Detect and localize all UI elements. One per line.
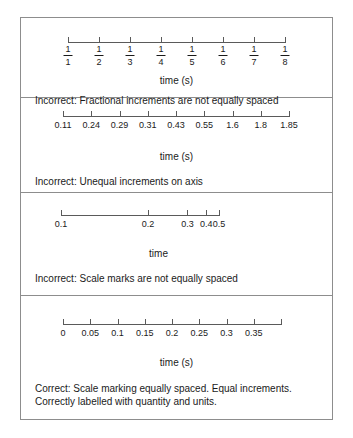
- fraction-numerator: 1: [64, 44, 73, 54]
- tick-label: 1 6: [218, 44, 227, 67]
- fraction-bar: [156, 55, 165, 56]
- tick-label: 0.4: [200, 219, 213, 230]
- axis-line: [61, 215, 219, 216]
- tick-label: 1.6: [226, 120, 239, 131]
- axis-title: time (s): [21, 357, 332, 368]
- axis-track: 1 1 1 2 1 3 1: [68, 42, 285, 76]
- fraction-bar: [281, 55, 290, 56]
- tick-label: 0.29: [111, 120, 129, 131]
- tick-label: 0.3: [181, 219, 194, 230]
- tick-label: 0.1: [111, 328, 124, 339]
- panel-unequal-scale-marks: 0.1 0.2 0.3 0.4 0.5 time Incorrect: Scal…: [21, 193, 332, 296]
- axis-title: time (s): [21, 75, 332, 86]
- fraction-numerator: 1: [218, 44, 227, 54]
- tick-label: 1 7: [249, 44, 258, 67]
- tick-label: 1 3: [125, 44, 134, 67]
- tick-label: 0.24: [82, 120, 100, 131]
- tick-label: 0.2: [142, 219, 155, 230]
- axis-track: 0.1 0.2 0.3 0.4 0.5: [61, 215, 219, 249]
- axis-fractional-increments: 1 1 1 2 1 3 1: [68, 42, 285, 76]
- tick-label: 0.35: [245, 328, 263, 339]
- panel-unequal-increments: 0.11 0.24 0.29 0.31 0.43 0.55 1.6 1.8 1.…: [21, 98, 332, 193]
- tick-label: 0.3: [220, 328, 233, 339]
- tick-label: 0: [60, 328, 65, 339]
- fraction-bar: [218, 55, 227, 56]
- tick-label: 0.31: [139, 120, 157, 131]
- panel-fractional-increments: 1 1 1 2 1 3 1: [21, 18, 332, 98]
- tick-label: 0.25: [190, 328, 208, 339]
- fraction-denominator: 6: [218, 57, 227, 67]
- scale-marking-figure: 1 1 1 2 1 3 1: [20, 17, 333, 420]
- fraction-denominator: 2: [94, 57, 103, 67]
- tick-label: 0.15: [136, 328, 154, 339]
- tick-label: 0.5: [213, 219, 226, 230]
- tick-label: 1 2: [94, 44, 103, 67]
- fraction-denominator: 1: [64, 57, 73, 67]
- fraction-numerator: 1: [125, 44, 134, 54]
- fraction-denominator: 4: [156, 57, 165, 67]
- axis-unequal-increments: 0.11 0.24 0.29 0.31 0.43 0.55 1.6 1.8 1.…: [63, 116, 289, 150]
- fraction-denominator: 3: [125, 57, 134, 67]
- fraction-numerator: 1: [281, 44, 290, 54]
- tick-label: 1 4: [156, 44, 165, 67]
- fraction-numerator: 1: [94, 44, 103, 54]
- tick-label: 0.43: [167, 120, 185, 131]
- tick-label: 0.1: [55, 219, 68, 230]
- axis-line: [68, 42, 285, 43]
- tick-label: 1.8: [254, 120, 267, 131]
- axis-track: 0 0.05 0.1 0.15 0.2 0.25 0.3 0.35: [63, 324, 281, 358]
- tick-label: 0.11: [55, 120, 72, 131]
- tick-label: 1 5: [187, 44, 196, 67]
- axis-track: 0.11 0.24 0.29 0.31 0.43 0.55 1.6 1.8 1.…: [63, 116, 289, 150]
- fraction-bar: [64, 55, 73, 56]
- fraction-bar: [249, 55, 258, 56]
- fraction-bar: [125, 55, 134, 56]
- tick-label: 0.05: [81, 328, 99, 339]
- tick-label: 0.55: [195, 120, 213, 131]
- panel-caption: Correct: Scale marking equally spaced. E…: [35, 382, 322, 408]
- fraction-bar: [94, 55, 103, 56]
- tick-label: 0.2: [166, 328, 179, 339]
- axis-title: time: [21, 248, 296, 259]
- fraction-numerator: 1: [187, 44, 196, 54]
- fraction-numerator: 1: [249, 44, 258, 54]
- panel-correct-scale: 0 0.05 0.1 0.15 0.2 0.25 0.3 0.35 time (…: [21, 296, 332, 419]
- fraction-numerator: 1: [156, 44, 165, 54]
- fraction-denominator: 8: [281, 57, 290, 67]
- axis-title: time (s): [21, 151, 332, 162]
- axis-unequal-scale-marks: 0.1 0.2 0.3 0.4 0.5: [61, 215, 219, 249]
- tick-label: 1 1: [64, 44, 73, 67]
- fraction-denominator: 7: [249, 57, 258, 67]
- axis-correct-scale: 0 0.05 0.1 0.15 0.2 0.25 0.3 0.35: [63, 324, 281, 358]
- panel-caption: Incorrect: Scale marks are not equally s…: [35, 272, 322, 285]
- fraction-denominator: 5: [187, 57, 196, 67]
- fraction-bar: [187, 55, 196, 56]
- tick-label: 1 8: [281, 44, 290, 67]
- tick-label: 1.85: [280, 120, 298, 131]
- panel-caption: Incorrect: Unequal increments on axis: [35, 175, 322, 188]
